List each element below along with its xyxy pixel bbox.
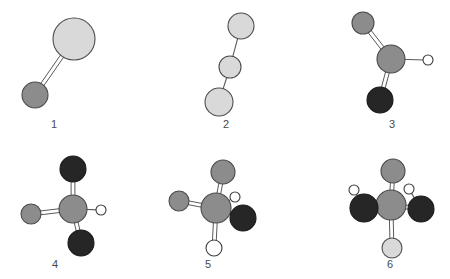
atom-black-below (367, 87, 393, 113)
panel-2 (205, 13, 254, 116)
atom-hydrogen-upper-right (230, 192, 240, 202)
panel-1 (22, 18, 95, 108)
panel-label-6: 6 (378, 258, 402, 270)
atom-hydrogen-right (423, 55, 433, 65)
atom-gray-top (381, 159, 405, 183)
atom-gray-left (169, 191, 189, 211)
atom-black-left (350, 194, 378, 222)
atom-black-lower-right (68, 230, 94, 256)
panel-label-4: 4 (43, 258, 67, 270)
panel-5 (169, 160, 256, 256)
atom-light-below (382, 238, 402, 258)
atom-center (201, 193, 231, 223)
atom-black-top (60, 156, 86, 182)
atom-hydrogen-right (404, 184, 414, 194)
molecular-structures-figure: 1 2 3 4 5 6 (0, 0, 450, 279)
panel-label-3: 3 (380, 118, 404, 130)
atom-medium-gray (22, 82, 48, 108)
atom-hydrogen-right (96, 205, 106, 215)
atom-black-right (408, 196, 434, 222)
atom-top (228, 13, 254, 39)
atom-white-below (206, 240, 222, 256)
panel-label-2: 2 (214, 118, 238, 130)
atom-upper-left (352, 12, 374, 34)
atom-black-lower-right (230, 205, 256, 231)
atom-hydrogen-left (349, 185, 359, 195)
panel-6 (349, 159, 434, 258)
panel-label-1: 1 (42, 118, 66, 130)
atom-gray-top (211, 160, 235, 184)
panel-3 (352, 12, 433, 113)
atom-bottom (205, 88, 233, 116)
panel-label-5: 5 (196, 258, 220, 270)
atom-large-light (53, 18, 95, 60)
atom-center (377, 45, 405, 73)
atom-gray-left (21, 204, 41, 224)
atom-center (59, 195, 87, 223)
molecule-canvas (0, 0, 450, 279)
atom-center (376, 190, 406, 220)
atom-middle (219, 56, 241, 78)
panel-4 (21, 156, 106, 256)
